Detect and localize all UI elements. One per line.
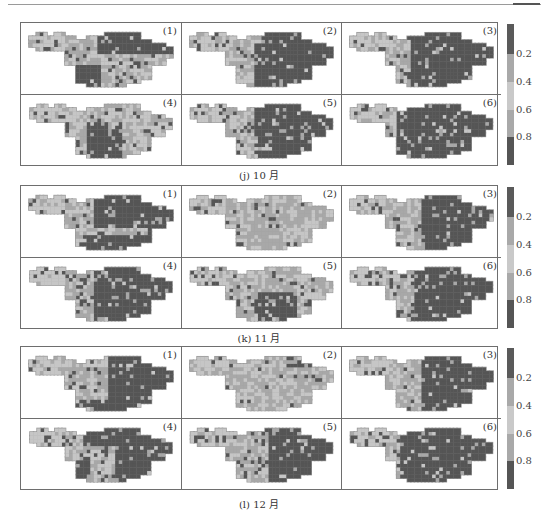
colorbar-tick-label: 0.4 (516, 400, 532, 411)
basin-map (342, 95, 501, 165)
colorbar-tick-label: 0.4 (516, 76, 532, 87)
map-panel-5: (5) (181, 257, 341, 328)
basin-map (21, 95, 181, 165)
panel-label: (4) (163, 260, 177, 271)
colorbar-band (507, 137, 514, 165)
map-panel-1: (1) (21, 347, 181, 418)
map-panel-6: (6) (341, 418, 501, 489)
basin-map (342, 419, 501, 489)
map-panel-2: (2) (181, 23, 341, 94)
basin-map (182, 419, 341, 489)
basin-map (182, 258, 341, 328)
panel-label: (5) (323, 260, 337, 271)
basin-map (21, 419, 181, 489)
colorbar-tick-label: 0.8 (516, 131, 532, 142)
group-caption: (j) 10 月 (20, 167, 498, 182)
map-panel-3: (3) (341, 186, 501, 257)
group-caption: (k) 11 月 (20, 330, 498, 345)
panel-frame: (1)(2)(3)(4)(5)(6) (20, 346, 498, 490)
basin-map (21, 186, 181, 257)
panel-label: (3) (483, 25, 497, 36)
map-panel-4: (4) (21, 94, 181, 165)
map-panel-6: (6) (341, 94, 501, 165)
map-panel-3: (3) (341, 23, 501, 94)
colorbar-band (507, 217, 514, 245)
basin-map (182, 95, 341, 165)
panel-label: (4) (163, 97, 177, 108)
panel-label: (3) (483, 349, 497, 360)
map-panel-2: (2) (181, 186, 341, 257)
colorbar-band (507, 434, 514, 461)
colorbar-tick-label: 0.6 (516, 428, 532, 439)
panel-label: (5) (323, 421, 337, 432)
colorbar-band (507, 406, 514, 434)
basin-map (21, 347, 181, 418)
colorbar-tick-label: 0.4 (516, 239, 532, 250)
header-accent (513, 3, 540, 5)
colorbar-tick-label: 0.2 (516, 211, 532, 222)
colorbar-tick-label: 0.8 (516, 455, 532, 466)
basin-map (21, 23, 181, 94)
map-panel-5: (5) (181, 94, 341, 165)
panel-label: (1) (163, 188, 177, 199)
colorbar-tick-label: 0.8 (516, 294, 532, 305)
map-panel-6: (6) (341, 257, 501, 328)
panel-label: (6) (483, 260, 497, 271)
panel-label: (4) (163, 421, 177, 432)
map-panel-3: (3) (341, 347, 501, 418)
basin-map (21, 258, 181, 328)
panel-label: (1) (163, 25, 177, 36)
map-panel-1: (1) (21, 186, 181, 257)
colorbar-band (507, 54, 514, 82)
panel-label: (5) (323, 97, 337, 108)
colorbar-band (507, 461, 514, 489)
colorbar-tick-label: 0.2 (516, 48, 532, 59)
colorbar-band (507, 24, 514, 54)
panel-label: (6) (483, 421, 497, 432)
colorbar-band (507, 348, 514, 378)
map-panel-1: (1) (21, 23, 181, 94)
header-rule (8, 4, 541, 5)
map-panel-4: (4) (21, 257, 181, 328)
panel-frame: (1)(2)(3)(4)(5)(6) (20, 22, 498, 166)
basin-map (342, 347, 501, 418)
colorbar-tick-label: 0.2 (516, 372, 532, 383)
colorbar-tick-label: 0.6 (516, 267, 532, 278)
colorbar-band (507, 187, 514, 217)
colorbar-band (507, 82, 514, 110)
basin-map (342, 186, 501, 257)
basin-map (342, 258, 501, 328)
panel-label: (3) (483, 188, 497, 199)
map-panel-2: (2) (181, 347, 341, 418)
basin-map (182, 186, 341, 257)
colorbar-band (507, 300, 514, 328)
panel-label: (2) (323, 25, 337, 36)
colorbar (507, 24, 514, 165)
colorbar-tick-label: 0.6 (516, 104, 532, 115)
colorbar-band (507, 245, 514, 273)
panel-label: (1) (163, 349, 177, 360)
panel-frame: (1)(2)(3)(4)(5)(6) (20, 185, 498, 329)
colorbar-band (507, 378, 514, 406)
colorbar (507, 348, 514, 489)
colorbar (507, 187, 514, 328)
panel-label: (2) (323, 188, 337, 199)
group-caption: (l) 12 月 (20, 496, 498, 511)
map-panel-4: (4) (21, 418, 181, 489)
colorbar-band (507, 110, 514, 137)
panel-label: (2) (323, 349, 337, 360)
colorbar-band (507, 273, 514, 300)
basin-map (182, 347, 341, 418)
basin-map (342, 23, 501, 94)
basin-map (182, 23, 341, 94)
panel-label: (6) (483, 97, 497, 108)
map-panel-5: (5) (181, 418, 341, 489)
